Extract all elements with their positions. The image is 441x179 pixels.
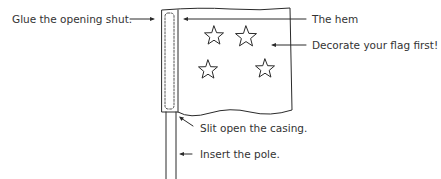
label-insert: Insert the pole. [200, 148, 280, 160]
pole [166, 112, 176, 179]
arrow-icon [181, 118, 193, 126]
label-decorate: Decorate your flag first! [312, 39, 438, 51]
star-icon [256, 59, 275, 77]
label-slit: Slit open the casing. [200, 122, 307, 134]
flag-body [162, 8, 292, 116]
star-icon [236, 26, 257, 46]
star-icon [205, 26, 224, 44]
flag-diagram: Glue the opening shut. The hem Decorate … [0, 0, 441, 179]
label-glue: Glue the opening shut. [12, 13, 132, 25]
label-hem: The hem [312, 13, 358, 25]
hem-casing [165, 10, 178, 112]
star-icon [199, 60, 218, 78]
